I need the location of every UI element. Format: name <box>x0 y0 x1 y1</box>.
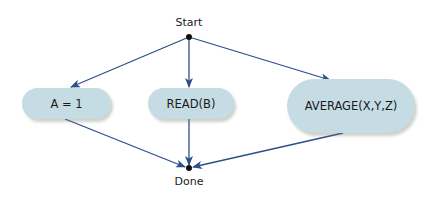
flowchart-canvas: Start A = 1 READ(B) AVERAGE(X,Y,Z) Done <box>0 0 438 197</box>
done-label: Done <box>175 175 204 188</box>
node-read-b: READ(B) <box>148 88 234 119</box>
edge-start-to-a <box>71 37 189 87</box>
start-label: Start <box>176 16 203 29</box>
node-assign-a: A = 1 <box>22 88 111 119</box>
start-point <box>186 34 192 40</box>
node-average-label: AVERAGE(X,Y,Z) <box>305 99 398 113</box>
done-point <box>186 165 192 171</box>
node-assign-a-label: A = 1 <box>50 97 82 111</box>
edge-average-to-done <box>193 133 343 167</box>
node-read-b-label: READ(B) <box>167 97 216 111</box>
edge-a-to-done <box>65 119 185 167</box>
edge-start-to-average <box>189 37 330 80</box>
node-average: AVERAGE(X,Y,Z) <box>287 79 415 133</box>
